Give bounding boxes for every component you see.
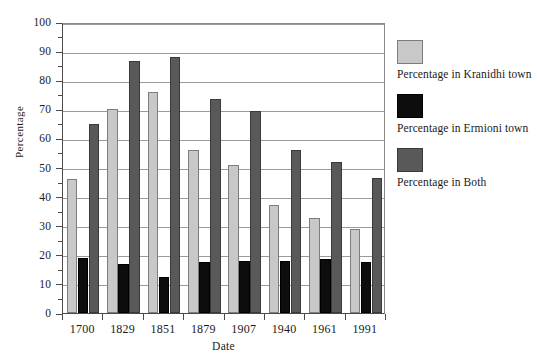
legend-label: Percentage in Ermioni town bbox=[397, 121, 537, 135]
bar bbox=[291, 150, 302, 313]
bar bbox=[129, 61, 140, 313]
legend-entry: Percentage in Ermioni town bbox=[397, 94, 537, 135]
gridline bbox=[63, 82, 384, 83]
gridline bbox=[63, 24, 384, 25]
x-axis-tick-label: 1991 bbox=[345, 323, 385, 336]
bar bbox=[107, 109, 118, 313]
bar bbox=[199, 262, 210, 313]
y-axis-minor-tick bbox=[58, 270, 62, 271]
y-axis-tick bbox=[56, 226, 62, 227]
x-axis-tick bbox=[143, 314, 144, 320]
bar bbox=[89, 124, 100, 313]
y-axis-tick bbox=[56, 139, 62, 140]
bar bbox=[372, 178, 383, 313]
y-axis-tick-label: 100 bbox=[0, 17, 51, 29]
legend-label: Percentage in Both bbox=[397, 175, 537, 189]
x-axis-tick bbox=[304, 314, 305, 320]
x-axis-tick-label: 1907 bbox=[224, 323, 264, 336]
bar bbox=[170, 57, 181, 313]
legend-entry: Percentage in Both bbox=[397, 148, 537, 189]
y-axis-tick-label: 80 bbox=[0, 75, 51, 87]
bar bbox=[78, 258, 89, 313]
y-axis-tick bbox=[56, 255, 62, 256]
y-axis-tick-label: 50 bbox=[0, 163, 51, 175]
gridline bbox=[63, 53, 384, 54]
legend-label: Percentage in Kranidhi town bbox=[397, 67, 537, 81]
x-axis-tick bbox=[183, 314, 184, 320]
bar bbox=[188, 150, 199, 313]
bar bbox=[228, 165, 239, 313]
x-axis-tick bbox=[102, 314, 103, 320]
y-axis-tick bbox=[56, 52, 62, 53]
y-axis-minor-tick bbox=[58, 212, 62, 213]
y-axis-minor-tick bbox=[58, 66, 62, 67]
y-axis-tick bbox=[56, 110, 62, 111]
x-axis-tick-label: 1940 bbox=[264, 323, 304, 336]
bar bbox=[118, 264, 129, 313]
bar bbox=[280, 261, 291, 313]
x-axis-tick bbox=[264, 314, 265, 320]
y-axis-tick bbox=[56, 284, 62, 285]
chart-legend: Percentage in Kranidhi townPercentage in… bbox=[397, 40, 537, 202]
bar bbox=[309, 218, 320, 313]
y-axis-tick-label: 10 bbox=[0, 279, 51, 291]
y-axis-tick bbox=[56, 81, 62, 82]
y-axis-tick-label: 60 bbox=[0, 133, 51, 145]
y-axis-tick-label: 20 bbox=[0, 250, 51, 262]
y-axis-minor-tick bbox=[58, 95, 62, 96]
bar bbox=[250, 111, 261, 313]
bar bbox=[350, 229, 361, 313]
x-axis-tick bbox=[62, 314, 63, 320]
x-axis-tick-label: 1851 bbox=[143, 323, 183, 336]
bar-chart-figure: 0102030405060708090100 Percentage 170018… bbox=[0, 0, 537, 359]
bar bbox=[148, 92, 159, 313]
y-axis-title: Percentage bbox=[13, 58, 25, 158]
y-axis-minor-tick bbox=[58, 183, 62, 184]
x-axis-tick-label: 1879 bbox=[183, 323, 223, 336]
y-axis-tick bbox=[56, 23, 62, 24]
x-axis-tick-label: 1829 bbox=[102, 323, 142, 336]
y-axis-tick-label: 70 bbox=[0, 104, 51, 116]
y-axis-minor-tick bbox=[58, 37, 62, 38]
legend-swatch bbox=[397, 94, 423, 118]
y-axis-tick-label: 90 bbox=[0, 46, 51, 58]
y-axis-tick bbox=[56, 168, 62, 169]
legend-swatch bbox=[397, 40, 423, 64]
x-axis-tick-label: 1961 bbox=[304, 323, 344, 336]
bar bbox=[331, 162, 342, 313]
bar bbox=[361, 262, 372, 313]
y-axis-minor-tick bbox=[58, 241, 62, 242]
y-axis-tick-label: 30 bbox=[0, 221, 51, 233]
bar bbox=[239, 261, 250, 313]
y-axis-tick-label: 40 bbox=[0, 192, 51, 204]
bar bbox=[159, 277, 170, 313]
bar bbox=[210, 99, 221, 313]
plot-area bbox=[62, 23, 385, 314]
x-axis-tick-label: 1700 bbox=[62, 323, 102, 336]
x-axis-tick bbox=[224, 314, 225, 320]
y-axis-tick bbox=[56, 197, 62, 198]
bar bbox=[269, 205, 280, 313]
y-axis-minor-tick bbox=[58, 153, 62, 154]
x-axis-tick bbox=[385, 314, 386, 320]
bar bbox=[67, 179, 78, 313]
y-axis-minor-tick bbox=[58, 124, 62, 125]
x-axis-title: Date bbox=[62, 340, 385, 352]
y-axis-tick-label: 0 bbox=[0, 308, 51, 320]
y-axis-minor-tick bbox=[58, 299, 62, 300]
legend-swatch bbox=[397, 148, 423, 172]
legend-entry: Percentage in Kranidhi town bbox=[397, 40, 537, 81]
x-axis-tick bbox=[345, 314, 346, 320]
bar bbox=[320, 259, 331, 313]
